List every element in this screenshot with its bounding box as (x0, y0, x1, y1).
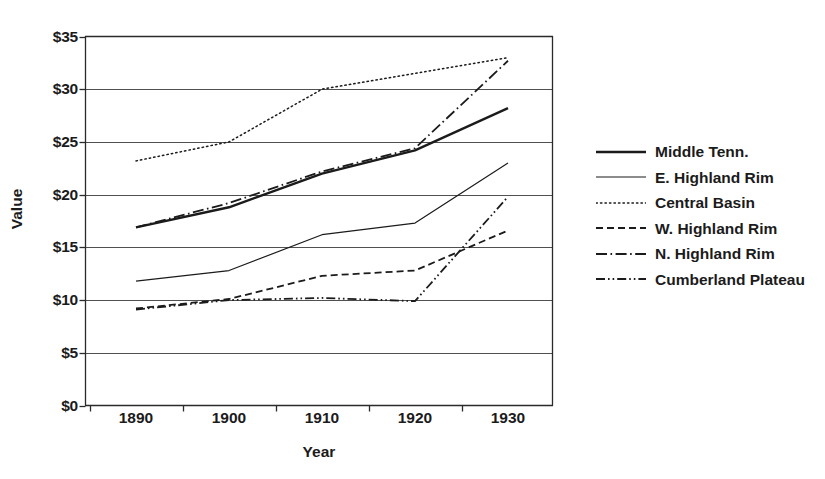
legend-item[interactable]: W. Highland Rim (596, 216, 821, 242)
legend-item[interactable]: Cumberland Plateau (596, 267, 821, 293)
x-axis-tick-labels: 18901900191019201930 (0, 0, 580, 479)
legend-line-sample-icon (596, 196, 646, 210)
legend-line-sample-icon (596, 221, 646, 235)
x-axis-tick-label: 1920 (375, 410, 455, 426)
line-chart: $0$5$10$15$20$25$30$35 18901900191019201… (0, 0, 580, 479)
legend-item-label: Central Basin (655, 195, 755, 211)
x-axis-tick-label: 1930 (468, 410, 548, 426)
legend-item-label: E. Highland Rim (655, 170, 774, 186)
legend-item[interactable]: N. Highland Rim (596, 241, 821, 267)
chart-legend: Middle Tenn.E. Highland RimCentral Basin… (596, 139, 821, 292)
y-axis-title: Value (8, 179, 26, 239)
x-axis-title: Year (85, 443, 553, 461)
x-axis-tick-label: 1900 (189, 410, 269, 426)
chart-page: $0$5$10$15$20$25$30$35 18901900191019201… (0, 0, 825, 479)
legend-line-sample-icon (596, 272, 646, 286)
legend-item-label: W. Highland Rim (655, 221, 777, 237)
legend-line-sample-icon (596, 145, 646, 159)
legend-item[interactable]: Central Basin (596, 190, 821, 216)
legend-item-label: N. Highland Rim (655, 246, 775, 262)
legend-item-label: Middle Tenn. (655, 144, 749, 160)
x-axis-tick-label: 1890 (96, 410, 176, 426)
legend-line-sample-icon (596, 170, 646, 184)
x-axis-tick-label: 1910 (282, 410, 362, 426)
legend-item[interactable]: E. Highland Rim (596, 165, 821, 191)
legend-line-sample-icon (596, 247, 646, 261)
legend-item[interactable]: Middle Tenn. (596, 139, 821, 165)
legend-item-label: Cumberland Plateau (655, 272, 805, 288)
